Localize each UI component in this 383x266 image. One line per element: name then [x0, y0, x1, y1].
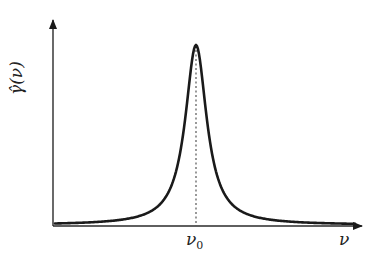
x-center-tick-sub: 0	[196, 239, 203, 252]
y-axis-label: γ̂(ν)	[8, 61, 25, 95]
x-center-tick-main: ν	[186, 229, 196, 249]
lorentzian-curve	[55, 45, 355, 224]
x-axis-label: ν	[339, 231, 349, 248]
x-center-tick-label: ν0	[186, 231, 203, 251]
lorentzian-plot	[0, 0, 383, 266]
